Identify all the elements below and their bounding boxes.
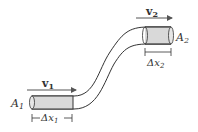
label-A2: A2	[175, 31, 189, 45]
label-v2: v2	[145, 5, 158, 19]
label-v1: v1	[41, 77, 54, 91]
label-A1: A1	[10, 97, 24, 111]
segment-2-back-face	[169, 27, 174, 44]
label-dx1: Δx1	[40, 112, 58, 125]
dx2-bracket	[145, 48, 171, 56]
segment-1	[32, 96, 73, 109]
segment-1-face	[30, 96, 35, 109]
label-dx2: Δx2	[146, 57, 165, 70]
pipe-flow-diagram: v1 v2 A1 A2 Δx1 Δx2	[0, 0, 198, 132]
segment-2	[145, 27, 171, 44]
